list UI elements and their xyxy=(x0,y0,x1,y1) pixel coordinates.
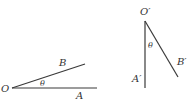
vertex-label-o-prime: O′ xyxy=(140,6,151,17)
angle-label-theta-prime: θ xyxy=(148,41,153,50)
label-b: B xyxy=(58,57,66,68)
ray-ob xyxy=(12,64,85,88)
vertex-label-o: O xyxy=(1,83,9,94)
angle-label-theta: θ xyxy=(40,79,45,88)
label-b-prime: B′ xyxy=(176,56,187,67)
figure-right: O′ A′ B′ θ xyxy=(131,6,187,88)
figure-left: O A B θ xyxy=(1,57,97,101)
label-a-prime: A′ xyxy=(131,73,142,84)
label-a: A xyxy=(75,90,83,101)
angle-diagram: O A B θ O′ A′ B′ θ xyxy=(0,0,196,108)
